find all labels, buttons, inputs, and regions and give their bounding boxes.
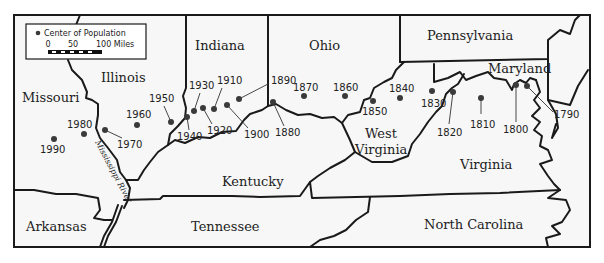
svg-text:1810: 1810 (470, 119, 495, 130)
svg-text:1790: 1790 (554, 109, 579, 120)
svg-text:1860: 1860 (333, 82, 358, 93)
legend-dot-icon (36, 31, 41, 36)
label-virginia: Virginia (459, 157, 513, 172)
label-maryland: Maryland (488, 61, 551, 76)
label-tennessee: Tennessee (191, 219, 260, 234)
svg-text:1940: 1940 (177, 131, 202, 142)
svg-text:1800: 1800 (503, 124, 528, 135)
svg-text:1980: 1980 (67, 119, 92, 130)
svg-text:1820: 1820 (437, 127, 462, 138)
svg-text:1990: 1990 (40, 144, 65, 155)
label-kentucky: Kentucky (222, 174, 284, 189)
svg-text:1950: 1950 (149, 93, 174, 104)
svg-text:1920: 1920 (207, 125, 232, 136)
scale-tick-0: 0 (45, 40, 50, 49)
svg-text:1900: 1900 (244, 129, 269, 140)
svg-text:1840: 1840 (389, 83, 414, 94)
scale-bar (48, 50, 102, 54)
label-illinois: Illinois (101, 70, 146, 85)
label-pennsylvania: Pennsylvania (427, 28, 513, 43)
svg-text:1910: 1910 (217, 75, 242, 86)
legend: Center of Population 0 50 100 Miles (26, 24, 146, 59)
population-center-map: Center of Population 0 50 100 Miles Miss… (0, 0, 604, 263)
label-ohio: Ohio (309, 38, 340, 53)
svg-text:1880: 1880 (275, 127, 300, 138)
label-west-virginia-1: West (365, 126, 398, 141)
svg-text:1930: 1930 (189, 80, 214, 91)
label-north-carolina: North Carolina (424, 217, 524, 232)
legend-marker-label: Center of Population (44, 29, 126, 38)
scale-tick-100: 100 Miles (96, 40, 134, 49)
svg-text:1850: 1850 (362, 106, 387, 117)
label-arkansas: Arkansas (25, 219, 87, 234)
label-indiana: Indiana (195, 38, 245, 53)
svg-text:1960: 1960 (126, 109, 151, 120)
svg-text:1890: 1890 (271, 75, 296, 86)
label-west-virginia-2: Virginia (354, 142, 408, 157)
scale-tick-50: 50 (68, 40, 78, 49)
label-missouri: Missouri (22, 90, 79, 105)
svg-text:1830: 1830 (421, 98, 446, 109)
svg-text:1970: 1970 (117, 139, 142, 150)
svg-text:1870: 1870 (293, 82, 318, 93)
